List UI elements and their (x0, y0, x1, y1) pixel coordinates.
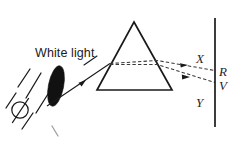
scan-artifact (52, 126, 58, 136)
white-light-label: White light (35, 47, 94, 60)
ray-label-x: X (196, 52, 204, 65)
converging-lens (45, 64, 68, 107)
prism-triangle (97, 22, 172, 90)
ray-label-r: R (219, 65, 227, 78)
ray-label-y: Y (196, 96, 203, 109)
ray-label-v: V (219, 79, 227, 92)
optics-diagram-figure: White light X R V Y (0, 0, 238, 142)
diagram-canvas (0, 0, 238, 142)
light-source-bulb (12, 99, 29, 123)
source-rays (6, 69, 48, 129)
